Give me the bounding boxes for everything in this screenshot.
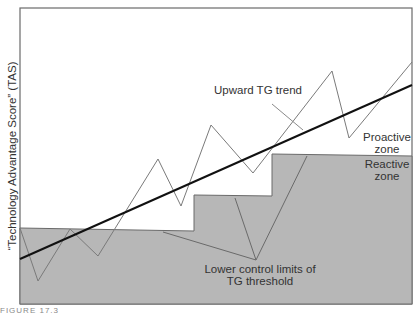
figure-caption: FIGURE 17.3: [0, 306, 59, 315]
reactive-zone-label: Reactive zone: [362, 158, 412, 182]
proactive-zone-label: Proactive zone: [362, 131, 412, 155]
proactive-label-line2: zone: [362, 143, 412, 155]
y-axis-label: “Technology Advantage Score” (TAS): [6, 56, 18, 256]
reactive-label-line1: Reactive: [362, 158, 412, 170]
proactive-label-line1: Proactive: [362, 131, 412, 143]
lcl-label-line1: Lower control limits of: [200, 263, 320, 275]
trend-label: Upward TG trend: [214, 84, 302, 96]
lcl-label-line2: TG threshold: [200, 275, 320, 287]
reactive-label-line2: zone: [362, 170, 412, 182]
lcl-label: Lower control limits of TG threshold: [200, 263, 320, 287]
